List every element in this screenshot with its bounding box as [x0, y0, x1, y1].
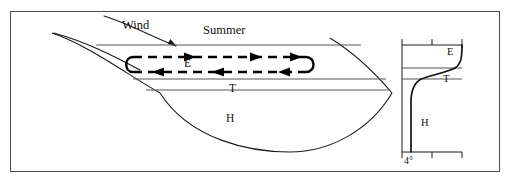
hypolimnion-label-inset: H	[421, 118, 429, 129]
right-shore-slope	[330, 38, 392, 93]
season-label: Summer	[203, 24, 245, 37]
figure-border	[11, 12, 500, 172]
temperature-curve	[411, 45, 462, 152]
diagram-canvas	[0, 0, 521, 183]
lake-stratification-figure: Wind Summer E T H E T H 4°	[0, 0, 521, 183]
epilimnion-label-inset: E	[447, 47, 453, 58]
lake-basin-floor	[160, 93, 392, 152]
left-shore-slope	[52, 33, 160, 93]
wind-label: Wind	[122, 19, 149, 32]
epilimnion-label-main: E	[184, 58, 191, 70]
thermocline-label-main: T	[229, 83, 236, 95]
hypolimnion-label-main: H	[226, 113, 234, 125]
thermocline-label-inset: T	[443, 74, 449, 85]
temperature-tick-label: 4°	[404, 156, 413, 166]
